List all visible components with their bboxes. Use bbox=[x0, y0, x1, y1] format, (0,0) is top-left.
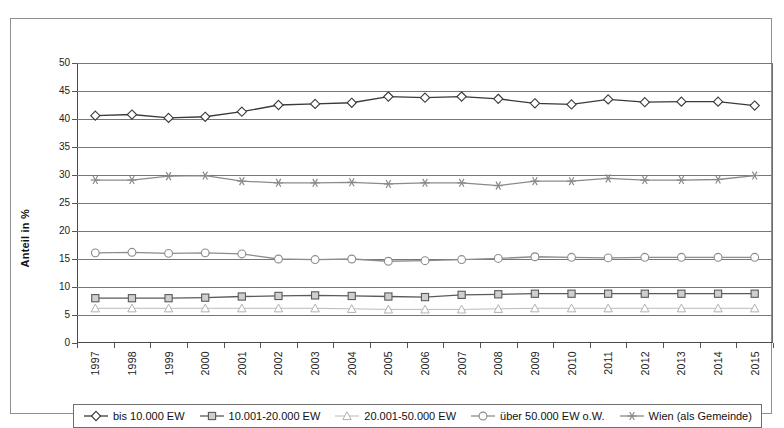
data-point-diamond bbox=[640, 98, 649, 107]
x-axis-tick bbox=[663, 343, 664, 348]
data-point-square bbox=[275, 292, 282, 299]
data-point-star bbox=[494, 182, 503, 190]
y-axis-label: 20 bbox=[46, 226, 70, 236]
data-point-circle bbox=[751, 253, 759, 261]
data-point-square bbox=[641, 290, 648, 297]
x-axis-tick bbox=[700, 343, 701, 348]
data-point-square bbox=[714, 290, 721, 297]
data-point-circle bbox=[238, 250, 246, 258]
x-axis-tick bbox=[333, 343, 334, 348]
x-axis-label: 1998 bbox=[126, 351, 138, 376]
data-point-diamond bbox=[750, 101, 759, 110]
data-point-square bbox=[458, 291, 465, 298]
x-axis-tick bbox=[297, 343, 298, 348]
data-point-circle bbox=[311, 256, 319, 264]
data-point-square bbox=[385, 293, 392, 300]
legend-marker-circle bbox=[470, 410, 496, 422]
series-2 bbox=[91, 304, 759, 313]
series-line bbox=[95, 176, 754, 186]
data-point-star bbox=[457, 179, 466, 187]
data-point-square bbox=[238, 293, 245, 300]
data-point-diamond bbox=[384, 92, 393, 101]
x-axis-label: 2008 bbox=[492, 351, 504, 376]
x-axis-label: 2014 bbox=[712, 351, 724, 376]
x-axis-label: 2001 bbox=[236, 351, 248, 376]
data-point-square bbox=[128, 295, 135, 302]
legend-item-0[interactable]: bis 10.000 EW bbox=[83, 410, 185, 422]
data-point-circle bbox=[678, 253, 686, 261]
data-point-diamond bbox=[420, 93, 429, 102]
data-point-circle bbox=[275, 255, 283, 263]
data-point-square bbox=[202, 294, 209, 301]
data-point-circle bbox=[479, 412, 487, 420]
data-point-diamond bbox=[604, 95, 613, 104]
data-point-square bbox=[348, 292, 355, 299]
data-point-circle bbox=[641, 253, 649, 261]
x-axis-label: 2015 bbox=[749, 351, 761, 376]
legend-label: bis 10.000 EW bbox=[113, 411, 185, 422]
legend-label: 20.001-50.000 EW bbox=[364, 411, 456, 422]
data-point-square bbox=[495, 291, 502, 298]
series-4 bbox=[91, 172, 760, 190]
y-axis-label: 35 bbox=[46, 142, 70, 152]
series-3 bbox=[91, 248, 758, 265]
data-point-square bbox=[92, 295, 99, 302]
x-axis-label: 2004 bbox=[346, 351, 358, 376]
data-point-square bbox=[531, 290, 538, 297]
x-axis-tick bbox=[480, 343, 481, 348]
legend-marker-triangle bbox=[334, 410, 360, 422]
x-axis-tick bbox=[260, 343, 261, 348]
x-axis-tick bbox=[553, 343, 554, 348]
x-axis-label: 2003 bbox=[309, 351, 321, 376]
legend-label: über 50.000 EW o.W. bbox=[500, 411, 605, 422]
data-point-star bbox=[164, 172, 173, 180]
data-point-square bbox=[751, 290, 758, 297]
x-axis-tick bbox=[187, 343, 188, 348]
x-axis-tick bbox=[224, 343, 225, 348]
data-point-circle bbox=[421, 257, 429, 265]
data-point-circle bbox=[91, 249, 99, 257]
data-point-diamond bbox=[127, 110, 136, 119]
y-axis-label: 10 bbox=[46, 282, 70, 292]
data-point-star bbox=[640, 176, 649, 184]
data-point-star bbox=[91, 176, 100, 184]
legend-marker-star bbox=[619, 410, 645, 422]
legend-item-1[interactable]: 10.001-20.000 EW bbox=[199, 410, 321, 422]
series-1 bbox=[92, 290, 759, 302]
y-axis-label: 50 bbox=[46, 58, 70, 68]
data-point-diamond bbox=[274, 100, 283, 109]
data-point-diamond bbox=[91, 111, 100, 120]
data-point-diamond bbox=[311, 99, 320, 108]
data-point-square bbox=[312, 292, 319, 299]
data-point-diamond bbox=[201, 112, 210, 121]
x-axis-label: 2005 bbox=[382, 351, 394, 376]
y-axis-label: 45 bbox=[46, 86, 70, 96]
x-axis-label: 2007 bbox=[456, 351, 468, 376]
data-point-circle bbox=[128, 248, 136, 256]
x-axis-label: 2009 bbox=[529, 351, 541, 376]
data-point-circle bbox=[458, 256, 466, 264]
series-layer bbox=[77, 63, 773, 343]
legend-marker-square bbox=[199, 410, 225, 422]
x-axis-tick bbox=[150, 343, 151, 348]
data-point-star bbox=[201, 172, 210, 180]
data-point-diamond bbox=[347, 98, 356, 107]
legend-item-3[interactable]: über 50.000 EW o.W. bbox=[470, 410, 605, 422]
data-point-circle bbox=[494, 255, 502, 263]
data-point-star bbox=[604, 174, 613, 182]
legend-item-4[interactable]: Wien (als Gemeinde) bbox=[619, 410, 752, 422]
x-axis-label: 2000 bbox=[199, 351, 211, 376]
data-point-square bbox=[678, 290, 685, 297]
data-point-star bbox=[274, 179, 283, 187]
data-point-circle bbox=[604, 254, 612, 262]
x-axis-tick bbox=[370, 343, 371, 348]
data-point-star bbox=[237, 177, 246, 185]
data-point-diamond bbox=[530, 99, 539, 108]
data-point-square bbox=[605, 290, 612, 297]
data-point-circle bbox=[568, 253, 576, 261]
legend-item-2[interactable]: 20.001-50.000 EW bbox=[334, 410, 456, 422]
y-axis-label: 40 bbox=[46, 114, 70, 124]
x-axis-tick bbox=[443, 343, 444, 348]
data-point-circle bbox=[165, 250, 173, 258]
x-axis-label: 2013 bbox=[675, 351, 687, 376]
